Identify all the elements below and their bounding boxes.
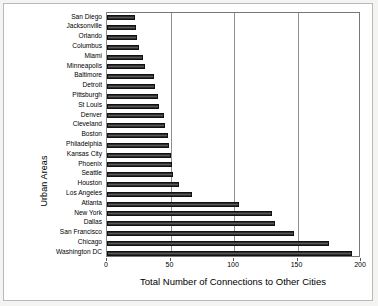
bar-row	[107, 111, 359, 121]
y-axis-label: Detroit	[22, 81, 104, 91]
bar-row	[107, 140, 359, 150]
bar	[107, 133, 168, 138]
y-axis-label: Seattle	[22, 169, 104, 179]
y-axis-label: Miami	[22, 51, 104, 61]
bar-row	[107, 199, 359, 209]
y-axis-label: Washington DC	[22, 247, 104, 257]
bar-row	[107, 131, 359, 141]
y-axis-label: St Louis	[22, 100, 104, 110]
bar-row	[107, 248, 359, 258]
bar	[107, 113, 164, 118]
y-axis-category-labels: San DiegoJacksonvilleOrlandoColumbusMiam…	[22, 12, 104, 257]
bar-row	[107, 189, 359, 199]
x-tick-label: 150	[291, 261, 303, 268]
bar-row	[107, 150, 359, 160]
y-axis-label: New York	[22, 208, 104, 218]
bar-row	[107, 238, 359, 248]
bar	[107, 231, 294, 236]
bar-row	[107, 160, 359, 170]
y-axis-label: Columbus	[22, 41, 104, 51]
bar-series	[107, 13, 359, 256]
y-axis-label: San Diego	[22, 12, 104, 22]
bar-row	[107, 82, 359, 92]
bar	[107, 202, 239, 207]
y-axis-label: Minneapolis	[22, 61, 104, 71]
x-axis-ticks: 050100150200	[106, 258, 360, 270]
y-axis-label: Kansas City	[22, 149, 104, 159]
bar-row	[107, 52, 359, 62]
y-axis-label: Phoenix	[22, 159, 104, 169]
bar-row	[107, 13, 359, 23]
y-axis-label: Pittsburgh	[22, 90, 104, 100]
bar-row	[107, 72, 359, 82]
bar	[107, 192, 192, 197]
bar	[107, 162, 172, 167]
bar	[107, 74, 154, 79]
bar	[107, 64, 145, 69]
x-tick-label: 200	[354, 261, 366, 268]
bar-row	[107, 209, 359, 219]
bar-row	[107, 229, 359, 239]
bar	[107, 15, 135, 20]
bar-row	[107, 170, 359, 180]
bar	[107, 55, 143, 60]
bar	[107, 84, 155, 89]
y-axis-label: Denver	[22, 110, 104, 120]
bar-row	[107, 33, 359, 43]
bar-row	[107, 121, 359, 131]
bar-row	[107, 42, 359, 52]
bar	[107, 182, 179, 187]
x-tick-label: 50	[166, 261, 174, 268]
x-tick-label: 100	[227, 261, 239, 268]
x-tick-label: 0	[104, 261, 108, 268]
bar-row	[107, 219, 359, 229]
x-axis-title: Total Number of Connections to Other Cit…	[106, 276, 360, 287]
bar	[107, 94, 158, 99]
y-axis-label: Cleveland	[22, 120, 104, 130]
y-axis-label: Baltimore	[22, 71, 104, 81]
bar-row	[107, 180, 359, 190]
chart-frame: Urban Areas San DiegoJacksonvilleOrlando…	[3, 3, 373, 301]
bar	[107, 25, 136, 30]
y-axis-label: Chicago	[22, 237, 104, 247]
bar	[107, 153, 171, 158]
y-axis-label: Jacksonville	[22, 22, 104, 32]
bar	[107, 35, 137, 40]
bar	[107, 211, 272, 216]
bar	[107, 172, 173, 177]
bar-row	[107, 101, 359, 111]
bar	[107, 123, 165, 128]
bar-row	[107, 91, 359, 101]
bar-row	[107, 62, 359, 72]
bar-row	[107, 23, 359, 33]
bar	[107, 241, 329, 246]
bar	[107, 45, 139, 50]
y-axis-label: Houston	[22, 179, 104, 189]
y-axis-label: Los Angeles	[22, 188, 104, 198]
y-axis-label: Orlando	[22, 32, 104, 42]
bar	[107, 251, 352, 256]
bar	[107, 143, 169, 148]
bar	[107, 221, 275, 226]
y-axis-label: Atlanta	[22, 198, 104, 208]
y-axis-label: Philadelphia	[22, 139, 104, 149]
plot-area	[106, 12, 360, 257]
y-axis-label: Boston	[22, 130, 104, 140]
y-axis-label: San Francisco	[22, 228, 104, 238]
y-axis-label: Dallas	[22, 218, 104, 228]
bar	[107, 104, 159, 109]
